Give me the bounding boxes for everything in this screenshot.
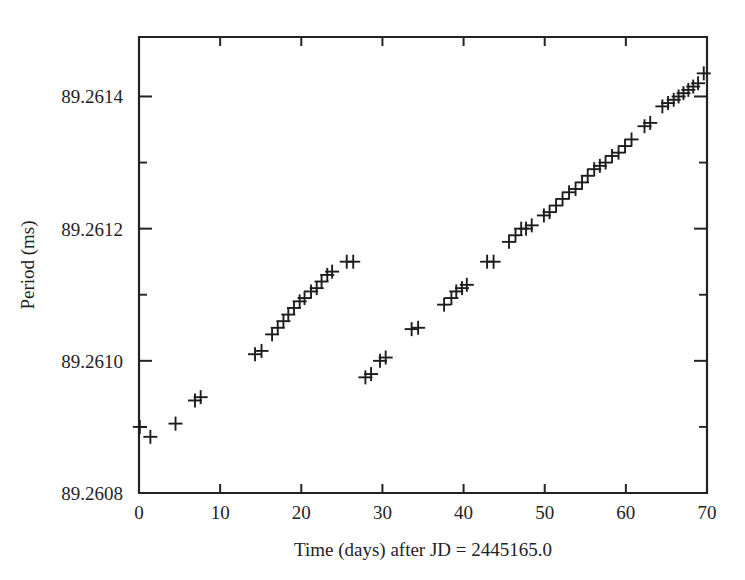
data-point [255,344,269,358]
data-point [143,430,157,444]
x-tick-label: 50 [535,502,554,523]
data-point [556,192,570,206]
y-tick-label: 89.2610 [61,351,123,372]
y-axis-tick-labels: 89.260889.261089.261289.2614 [61,86,123,504]
period-vs-time-scatter-chart: 010203040506070 89.260889.261089.261289.… [0,0,745,580]
y-tick-label: 89.2608 [61,483,123,504]
data-point [487,255,501,269]
x-axis-ticks [139,37,707,493]
x-tick-label: 10 [211,502,230,523]
x-tick-label: 0 [134,502,144,523]
data-point [405,322,419,336]
data-point [618,139,632,153]
y-tick-label: 89.2612 [61,219,123,240]
x-tick-label: 40 [454,502,473,523]
data-point [169,417,183,431]
x-axis-title: Time (days) after JD = 2445165.0 [294,539,552,561]
y-axis-ticks [139,96,707,493]
data-point [605,149,619,163]
data-point [437,298,451,312]
figure-container: 010203040506070 89.260889.261089.261289.… [0,0,745,580]
plot-frame [139,37,707,493]
data-point [569,182,583,196]
data-point [133,420,147,434]
data-point [612,146,626,160]
x-tick-label: 60 [616,502,635,523]
y-axis-title: Period (ms) [17,220,39,309]
data-point [502,235,516,249]
data-point [346,255,360,269]
x-tick-label: 20 [292,502,311,523]
data-point [549,199,563,213]
data-point-markers [133,66,711,443]
data-point [625,132,639,146]
data-point [248,347,262,361]
data-point [562,185,576,199]
data-point [411,321,425,335]
x-tick-label: 30 [373,502,392,523]
x-tick-label: 70 [698,502,717,523]
x-axis-tick-labels: 010203040506070 [134,502,716,523]
y-tick-label: 89.2614 [61,86,123,107]
